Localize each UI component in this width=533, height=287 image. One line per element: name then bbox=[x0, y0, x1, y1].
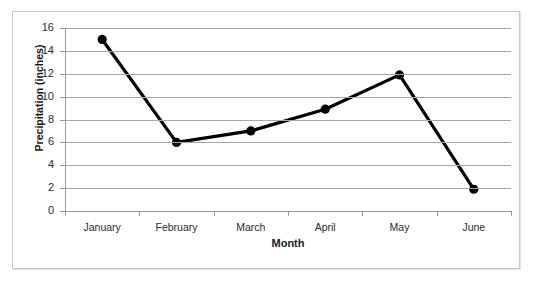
y-tick-mark-6 bbox=[60, 142, 65, 143]
y-tick-label-2: 2 bbox=[14, 182, 54, 193]
y-tick-mark-2 bbox=[60, 188, 65, 189]
y-tick-label-0: 0 bbox=[14, 205, 54, 216]
y-tick-label-4: 4 bbox=[14, 159, 54, 170]
x-tick-mark-3 bbox=[288, 211, 289, 216]
y-tick-label-14: 14 bbox=[14, 45, 54, 56]
gridline-y-4 bbox=[65, 165, 511, 166]
x-tick-mark-1 bbox=[139, 211, 140, 216]
y-tick-label-12: 12 bbox=[14, 68, 54, 79]
x-tick-label-june: June bbox=[437, 221, 511, 233]
y-tick-mark-14 bbox=[60, 51, 65, 52]
data-point-march bbox=[246, 126, 255, 135]
gridline-y-16 bbox=[65, 28, 511, 29]
chart-title-cropped bbox=[0, 0, 533, 7]
x-tick-mark-2 bbox=[214, 211, 215, 216]
x-tick-mark-6 bbox=[511, 211, 512, 216]
gridline-y-12 bbox=[65, 74, 511, 75]
x-tick-label-february: February bbox=[139, 221, 213, 233]
y-tick-label-8: 8 bbox=[14, 114, 54, 125]
data-point-june bbox=[469, 185, 478, 194]
y-tick-label-6: 6 bbox=[14, 136, 54, 147]
gridline-y-10 bbox=[65, 97, 511, 98]
line-series-path bbox=[102, 39, 474, 189]
data-point-january bbox=[98, 35, 107, 44]
data-point-april bbox=[321, 105, 330, 114]
y-tick-label-10: 10 bbox=[14, 91, 54, 102]
y-tick-label-16: 16 bbox=[14, 22, 54, 33]
x-tick-label-march: March bbox=[214, 221, 288, 233]
y-tick-mark-12 bbox=[60, 74, 65, 75]
gridline-y-6 bbox=[65, 142, 511, 143]
plot-area bbox=[65, 28, 511, 211]
y-tick-mark-10 bbox=[60, 97, 65, 98]
gridline-y-14 bbox=[65, 51, 511, 52]
x-tick-label-may: May bbox=[362, 221, 436, 233]
gridline-y-8 bbox=[65, 120, 511, 121]
data-point-may bbox=[395, 70, 404, 79]
y-tick-mark-4 bbox=[60, 165, 65, 166]
x-tick-label-january: January bbox=[65, 221, 139, 233]
x-tick-label-april: April bbox=[288, 221, 362, 233]
x-tick-mark-5 bbox=[437, 211, 438, 216]
gridline-y-2 bbox=[65, 188, 511, 189]
x-axis-title: Month bbox=[65, 237, 511, 249]
y-tick-mark-8 bbox=[60, 120, 65, 121]
x-tick-mark-0 bbox=[65, 211, 66, 216]
y-tick-mark-16 bbox=[60, 28, 65, 29]
x-tick-mark-4 bbox=[362, 211, 363, 216]
